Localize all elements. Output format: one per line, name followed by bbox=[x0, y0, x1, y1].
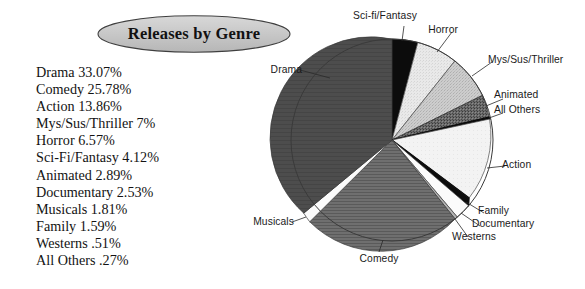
legend-item-westerns: Westerns .51% bbox=[36, 235, 256, 252]
pie-slice-documentary bbox=[392, 140, 469, 217]
legend-item-family: Family 1.59% bbox=[36, 218, 256, 235]
chart-page: Releases by Genre Drama 33.07% Comedy 25… bbox=[0, 0, 585, 289]
page-title: Releases by Genre bbox=[96, 14, 292, 54]
pie-slice-scifi-fantasy bbox=[392, 39, 418, 140]
legend-item-mys-sus-thriller: Mys/Sus/Thriller 7% bbox=[36, 115, 256, 132]
leader-drama bbox=[300, 70, 330, 78]
pie-outline bbox=[291, 39, 493, 241]
pie-label-drama: Drama bbox=[258, 64, 302, 75]
pie-slice-horror bbox=[392, 42, 455, 140]
leader-documentary bbox=[461, 213, 480, 226]
legend-item-animated: Animated 2.89% bbox=[36, 167, 256, 184]
leader-scifi-fantasy bbox=[402, 26, 404, 41]
legend-item-horror: Horror 6.57% bbox=[36, 132, 256, 149]
legend-item-all-others: All Others .27% bbox=[36, 252, 256, 269]
pie-label-action: Action bbox=[502, 159, 582, 170]
legend-item-musicals: Musicals 1.81% bbox=[36, 201, 256, 218]
pie-label-horror: Horror bbox=[396, 24, 458, 35]
leader-musicals bbox=[292, 217, 306, 222]
leader-action bbox=[487, 166, 505, 168]
pie-slice-mys-sus-thriller bbox=[392, 61, 483, 140]
pie-label-scifi-fantasy: Sci-fi/Fantasy bbox=[327, 10, 443, 21]
pie-slice-animated bbox=[392, 95, 489, 140]
pie-leader-lines bbox=[292, 26, 505, 252]
pie-slice-musicals bbox=[304, 140, 392, 222]
pie-label-westerns: Westerns bbox=[452, 231, 558, 242]
leader-all-others bbox=[489, 113, 503, 118]
legend-item-documentary: Documentary 2.53% bbox=[36, 184, 256, 201]
pie-label-documentary: Documentary bbox=[472, 218, 582, 229]
leader-animated bbox=[486, 99, 503, 106]
legend-item-comedy: Comedy 25.78% bbox=[36, 81, 256, 98]
title-banner: Releases by Genre bbox=[96, 14, 292, 54]
pie-slice-family bbox=[392, 140, 469, 206]
legend-item-scifi-fantasy: Sci-Fi/Fantasy 4.12% bbox=[36, 149, 256, 166]
pie-label-family: Family bbox=[478, 205, 582, 216]
pie-slice-action bbox=[392, 119, 491, 198]
pie-slice-comedy bbox=[310, 140, 455, 251]
leader-comedy bbox=[379, 240, 383, 252]
pie-label-comedy: Comedy bbox=[339, 253, 419, 264]
legend-list: Drama 33.07% Comedy 25.78% Action 13.86%… bbox=[36, 64, 256, 269]
pie-slices bbox=[270, 37, 491, 251]
leader-family bbox=[466, 202, 484, 213]
pie-label-all-others: All Others bbox=[494, 104, 582, 115]
pie-slice-drama bbox=[270, 37, 392, 213]
pie-label-animated: Animated bbox=[494, 89, 582, 100]
legend-item-drama: Drama 33.07% bbox=[36, 64, 256, 81]
leader-westerns bbox=[455, 219, 468, 237]
leader-mys-sus-thriller bbox=[472, 62, 492, 76]
pie-slice-westerns bbox=[392, 140, 457, 219]
pie-label-mys-sus-thriller: Mys/Sus/Thriller bbox=[488, 54, 582, 65]
leader-horror bbox=[437, 32, 452, 52]
pie-slice-all-others bbox=[392, 117, 490, 140]
legend-item-action: Action 13.86% bbox=[36, 98, 256, 115]
